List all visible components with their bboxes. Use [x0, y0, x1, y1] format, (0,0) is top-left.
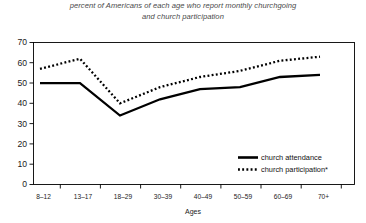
legend-label-participation: church participation* [261, 165, 328, 174]
legend-label-attendance: church attendance [261, 153, 322, 162]
y-tick-label-30: 30 [17, 119, 27, 129]
y-axis-ticks [30, 43, 34, 185]
series-church-participation [40, 57, 320, 104]
x-tick-label-5: 50–59 [234, 193, 253, 200]
x-tick-label-7: 70+ [318, 193, 329, 200]
line-chart-svg: 0 10 20 30 40 50 60 70 8–12 13–17 18–29 … [0, 0, 366, 223]
x-axis-ticks [60, 185, 341, 189]
y-tick-label-40: 40 [17, 98, 27, 108]
x-tick-label-4: 40–49 [194, 193, 213, 200]
y-tick-label-50: 50 [17, 78, 27, 88]
y-tick-label-70: 70 [17, 37, 27, 47]
y-axis-tick-labels: 0 10 20 30 40 50 60 70 [17, 37, 27, 189]
x-tick-label-1: 13–17 [74, 193, 93, 200]
x-tick-label-6: 60–69 [274, 193, 293, 200]
x-tick-label-0: 8–12 [36, 193, 51, 200]
y-tick-label-10: 10 [17, 159, 27, 169]
x-tick-label-2: 18–29 [114, 193, 133, 200]
x-tick-label-3: 30–39 [154, 193, 173, 200]
y-tick-label-60: 60 [17, 58, 27, 68]
x-axis-tick-labels: 8–12 13–17 18–29 30–39 40–49 50–59 60–69… [36, 193, 329, 200]
y-tick-label-20: 20 [17, 139, 27, 149]
x-axis-title: Ages [185, 208, 201, 216]
plot-frame [34, 43, 355, 185]
chart-container: percent of Americans of each age who rep… [0, 0, 366, 223]
y-tick-label-0: 0 [22, 179, 27, 189]
chart-legend: church attendance church participation* [238, 153, 328, 174]
